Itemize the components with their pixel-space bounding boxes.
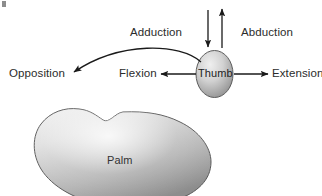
label-palm: Palm: [107, 154, 132, 166]
label-opposition: Opposition: [9, 67, 65, 79]
label-flexion: Flexion: [119, 67, 157, 79]
label-abduction: Abduction: [241, 26, 293, 38]
label-adduction: Adduction: [130, 26, 182, 38]
label-extension: Extension: [272, 67, 322, 79]
figure-canvas: Adduction Abduction Opposition Flexion E…: [0, 0, 322, 196]
label-thumb: Thumb: [198, 67, 233, 79]
palm-shape: [34, 109, 211, 196]
